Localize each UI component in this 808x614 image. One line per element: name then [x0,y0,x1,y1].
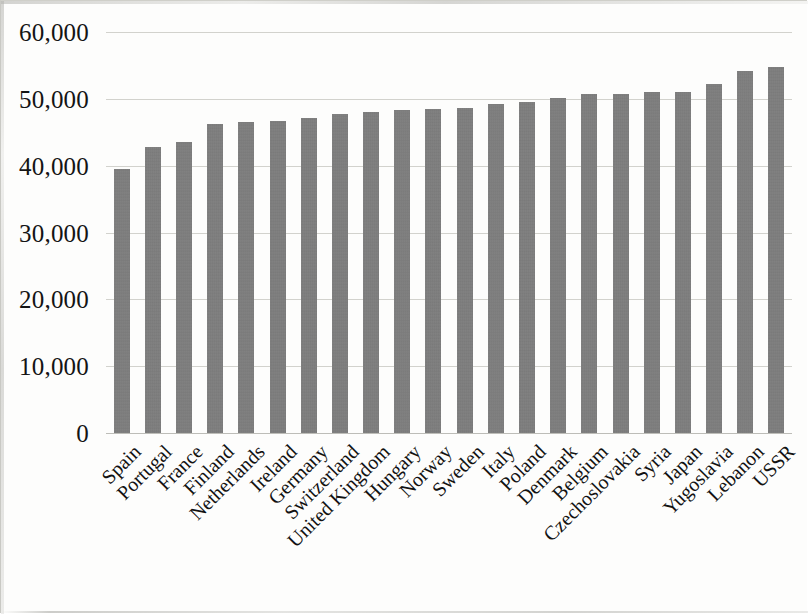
bar [519,102,535,433]
y-axis-tick-label: 50,000 [19,86,89,111]
bar [581,94,597,433]
y-axis: 010,00020,00030,00040,00050,00060,000 [1,32,101,433]
y-axis-tick-label: 20,000 [19,287,89,312]
bar [768,67,784,433]
y-axis-tick-label: 30,000 [19,220,89,245]
y-axis-tick-label: 10,000 [19,354,89,379]
scan-edge-top [1,1,808,4]
plot-area [106,32,792,433]
bar [644,92,660,433]
bar [675,92,691,433]
bar [457,108,473,433]
y-axis-tick-label: 0 [76,421,89,446]
bar [613,94,629,434]
bar [394,110,410,433]
bar [145,147,161,433]
bar [114,169,130,433]
y-axis-tick-label: 60,000 [19,20,89,45]
bar [706,84,722,433]
bar [301,118,317,433]
axis-baseline [106,433,792,434]
scan-edge-bottom [1,611,808,613]
bar [176,142,192,433]
bar [332,114,348,433]
bar [238,122,254,433]
bar [363,112,379,433]
y-axis-tick-label: 40,000 [19,153,89,178]
bar [550,98,566,433]
bar [425,109,441,433]
bar-series [106,32,792,433]
bar [207,124,223,433]
bar [737,71,753,433]
x-axis: SpainPortugalFranceFinlandNetherlandsIre… [106,435,792,610]
bar [488,104,504,433]
bar [270,121,286,433]
